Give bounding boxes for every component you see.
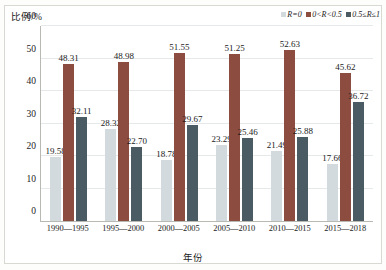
bar[interactable]: [161, 160, 172, 221]
bar-slot: 51.25: [229, 26, 240, 221]
y-tick-label: 20: [27, 141, 37, 151]
bar-slot: 23.29: [216, 26, 227, 221]
bar[interactable]: [271, 151, 282, 221]
bar-groups: 19.5848.3132.1128.3248.9822.7018.7851.55…: [41, 26, 373, 221]
bar-slot: 22.70: [131, 26, 142, 221]
bar-group: 18.7851.5529.67: [152, 26, 207, 221]
legend-swatch-icon-0: [281, 12, 286, 17]
bar-slot: 18.78: [161, 26, 172, 221]
legend-label-2: 0.5≤R≤1: [352, 10, 380, 19]
bar-value-label: 25.88: [293, 127, 313, 136]
bar[interactable]: [174, 53, 185, 221]
bar[interactable]: [242, 138, 253, 221]
bar[interactable]: [297, 137, 308, 221]
bar[interactable]: [131, 147, 142, 221]
bar-slot: 52.63: [284, 26, 295, 221]
plot-area: 0102030405060 19.5848.3132.1128.3248.982…: [40, 26, 373, 222]
x-axis-title: 年份: [0, 250, 386, 264]
legend-label-0: R=0: [287, 10, 301, 19]
bar-value-label: 25.46: [238, 128, 258, 137]
legend-item-2: 0.5≤R≤1: [346, 10, 380, 19]
legend-label-1: 0<R<0.5: [312, 10, 342, 19]
bar-value-label: 36.72: [348, 92, 368, 101]
chart-legend: R=0 0<R<0.5 0.5≤R≤1: [277, 10, 380, 19]
bar[interactable]: [105, 129, 116, 221]
x-tick-label: 2005—2010: [207, 224, 263, 233]
bar[interactable]: [353, 102, 364, 221]
y-tick-label: 40: [27, 76, 37, 86]
bar-value-label: 32.11: [72, 107, 92, 116]
legend-swatch-icon-2: [346, 12, 351, 17]
x-tick-label: 2010—2015: [262, 224, 318, 233]
bar-value-label: 22.70: [127, 137, 147, 146]
bar-slot: 32.11: [76, 26, 87, 221]
x-tick-label: 1995—2000: [96, 224, 152, 233]
x-tick-label: 2015—2018: [318, 224, 374, 233]
chart-figure: 比例/% R=0 0<R<0.5 0.5≤R≤1 0102030405060 1…: [0, 0, 386, 270]
bar-slot: 21.49: [271, 26, 282, 221]
bar-slot: 48.98: [118, 26, 129, 221]
bar-slot: 29.67: [187, 26, 198, 221]
x-axis-ticks: 1990—19951995—20002000—20052005—20102010…: [40, 224, 373, 233]
x-tick-label: 1990—1995: [40, 224, 96, 233]
y-tick-label: 10: [27, 174, 37, 184]
bar-slot: 25.46: [242, 26, 253, 221]
bar-slot: 45.62: [340, 26, 351, 221]
bar-group: 17.6645.6236.72: [318, 26, 373, 221]
bar-slot: 25.88: [297, 26, 308, 221]
bar-group: 23.2951.2525.46: [207, 26, 262, 221]
bar[interactable]: [63, 64, 74, 221]
y-tick-label: 50: [27, 44, 37, 54]
legend-swatch-icon-1: [306, 12, 311, 17]
bar-group: 21.4952.6325.88: [262, 26, 317, 221]
bar[interactable]: [216, 145, 227, 221]
bar[interactable]: [187, 125, 198, 221]
bar-group: 28.3248.9822.70: [96, 26, 151, 221]
x-tick-label: 2000—2005: [151, 224, 207, 233]
bar-value-label: 29.67: [182, 115, 202, 124]
bar[interactable]: [50, 157, 61, 221]
bar[interactable]: [229, 54, 240, 221]
y-tick-label: 0: [31, 206, 36, 216]
legend-item-0: R=0: [281, 10, 302, 19]
legend-item-1: 0<R<0.5: [306, 10, 342, 19]
y-tick-label: 30: [27, 109, 37, 119]
bar-slot: 36.72: [353, 26, 364, 221]
bar[interactable]: [76, 117, 87, 221]
bar-group: 19.5848.3132.11: [41, 26, 96, 221]
bar[interactable]: [327, 164, 338, 221]
bar-slot: 17.66: [327, 26, 338, 221]
y-tick-label: 60: [27, 11, 37, 21]
bar-slot: 48.31: [63, 26, 74, 221]
